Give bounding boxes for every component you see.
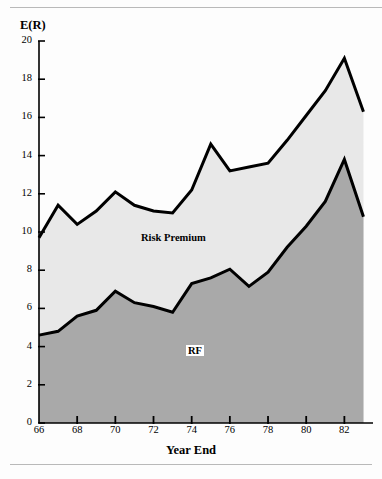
y-tick-label: 18 — [8, 72, 32, 83]
x-tick-label: 74 — [179, 424, 205, 435]
y-tick-label: 16 — [8, 110, 32, 121]
x-tick-label: 68 — [64, 424, 90, 435]
x-tick-label: 70 — [102, 424, 128, 435]
y-tick-label: 20 — [8, 34, 32, 45]
y-tick-label: 2 — [8, 378, 32, 389]
y-tick-label: 8 — [8, 263, 32, 274]
figure-container: E(R) Year End 02468101214161820 66687072… — [0, 0, 382, 479]
x-tick-label: 72 — [141, 424, 167, 435]
x-tick-label: 76 — [217, 424, 243, 435]
series-label-risk-premium: Risk Premium — [141, 232, 206, 243]
y-tick-label: 12 — [8, 187, 32, 198]
x-tick-label: 78 — [255, 424, 281, 435]
x-tick-label: 82 — [331, 424, 357, 435]
y-tick-label: 10 — [8, 225, 32, 236]
y-tick-label: 4 — [8, 340, 32, 351]
y-tick-label: 14 — [8, 149, 32, 160]
series-label-rf: RF — [186, 345, 204, 356]
x-tick-label: 66 — [26, 424, 52, 435]
x-tick-label: 80 — [293, 424, 319, 435]
y-tick-label: 6 — [8, 301, 32, 312]
